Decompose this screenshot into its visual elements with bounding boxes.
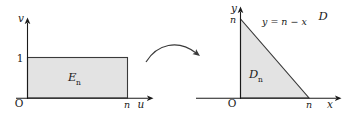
mapping-arrow-path xyxy=(146,45,196,62)
right-horizontal-axis-label: x xyxy=(327,98,333,110)
left-x-tick-label: n xyxy=(124,99,130,110)
left-origin-label: O xyxy=(15,97,24,109)
outer-region-label: D xyxy=(317,9,327,23)
right-region-label-subscript: n xyxy=(258,75,263,84)
left-y-tick-label: 1 xyxy=(17,52,24,64)
left-plot-group: v u O 1 n E n xyxy=(15,12,148,110)
right-x-tick-label: n xyxy=(306,99,312,110)
left-horizontal-axis-label: u xyxy=(138,98,145,110)
mapping-arrow xyxy=(146,45,196,62)
right-vertical-axis-label: y xyxy=(230,2,238,14)
right-origin-label: O xyxy=(228,97,237,109)
left-vertical-axis-label: v xyxy=(18,12,24,24)
line-equation-label: y = n − x xyxy=(261,16,307,27)
right-plot-group: y x O n n y = n − x D D n xyxy=(196,2,336,110)
right-y-tick-label: n xyxy=(230,14,236,25)
region-triangle-Dn xyxy=(241,19,310,98)
right-region-label-base: D xyxy=(248,67,258,81)
figure-svg: v u O 1 n E n y xyxy=(0,0,347,114)
figure-container: v u O 1 n E n y xyxy=(0,0,347,114)
left-region-label-subscript: n xyxy=(76,78,81,87)
